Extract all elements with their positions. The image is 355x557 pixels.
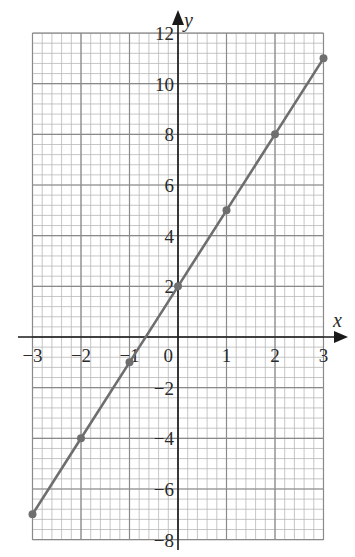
x-tick-label: −2 — [71, 345, 91, 366]
data-point — [77, 434, 85, 442]
data-point — [223, 206, 231, 214]
data-point — [320, 54, 328, 62]
x-tick-label: 3 — [319, 345, 329, 366]
x-tick-label: 1 — [222, 345, 232, 366]
x-axis-arrow-icon — [334, 331, 348, 343]
y-tick-label: −6 — [154, 479, 174, 500]
y-tick-label: 4 — [165, 226, 175, 247]
y-tick-label: 6 — [165, 175, 175, 196]
x-axis-label: x — [332, 309, 342, 331]
x-tick-label: 0 — [164, 345, 174, 366]
y-tick-label: −2 — [154, 378, 174, 399]
y-tick-label: 10 — [155, 74, 174, 95]
x-tick-label: −3 — [22, 345, 42, 366]
data-point — [271, 130, 279, 138]
y-tick-label: 8 — [165, 124, 175, 145]
y-tick-label: −8 — [154, 530, 174, 551]
y-tick-label: −4 — [154, 428, 175, 449]
data-point — [174, 282, 182, 290]
x-tick-label: 2 — [270, 345, 280, 366]
y-tick-label: 12 — [155, 23, 174, 44]
data-point — [126, 358, 134, 366]
line-chart: x y −3−2−10123−8−6−4−224681012 — [0, 0, 355, 557]
y-axis-label: y — [182, 9, 193, 32]
data-point — [29, 510, 37, 518]
